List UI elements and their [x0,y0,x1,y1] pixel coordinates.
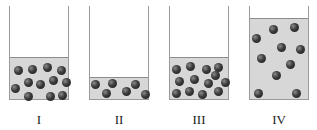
particle [175,77,184,86]
particle [11,84,20,93]
particle [62,78,71,87]
container-ii [89,6,149,100]
gas-fill [10,57,68,99]
particle [91,80,100,89]
particle [286,60,295,69]
particle [190,75,199,84]
particle [214,87,223,96]
particle [172,65,181,74]
particle [172,89,181,98]
particle [186,62,195,71]
particle [202,65,211,74]
particle [252,34,261,43]
container-label: III [169,112,229,128]
particle [46,92,55,101]
particle [122,87,131,96]
particle [24,92,33,101]
particle [43,63,52,72]
particle [296,45,305,54]
particle [14,66,23,75]
container-label: IV [249,112,309,128]
particle [185,87,194,96]
particle [277,43,286,52]
particle [257,54,266,63]
particle [141,90,150,99]
container-label: II [89,112,149,128]
particle [58,91,67,100]
container-iv [249,6,309,100]
particle [24,78,33,87]
particle [254,89,263,98]
particle [131,80,140,89]
particle [269,25,278,34]
particle [290,23,299,32]
particle [292,89,301,98]
particle [204,79,213,88]
particle [36,80,45,89]
particle [211,71,220,80]
particle [49,76,58,85]
particle [28,65,37,74]
particle [108,79,117,88]
particle [102,89,111,98]
particle [198,90,207,99]
particle [221,78,230,87]
container-i [9,6,69,100]
container-label: I [9,112,69,128]
particle [272,71,281,80]
gas-fill [170,57,228,99]
gas-fill [90,77,148,99]
container-iii [169,6,229,100]
gas-fill [250,18,308,99]
particle [57,66,66,75]
